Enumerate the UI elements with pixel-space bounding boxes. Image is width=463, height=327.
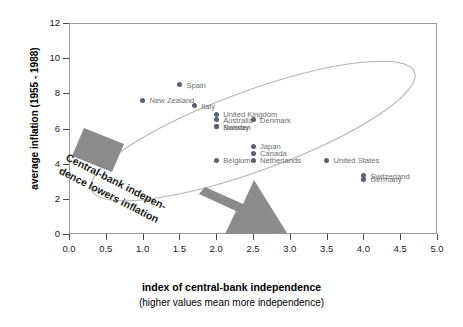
- data-point-label: Netherlands: [260, 156, 301, 165]
- y-tick-label: 12: [36, 17, 60, 28]
- x-tick-label: 4.5: [380, 243, 420, 254]
- x-tick: [106, 234, 107, 240]
- chart-canvas: average inflation (1955 - 1988) 02468101…: [0, 0, 463, 327]
- x-tick-label: 4.0: [343, 243, 383, 254]
- y-tick-label: 2: [36, 193, 60, 204]
- data-point[interactable]: [140, 98, 145, 103]
- data-point-label: Italy: [201, 102, 215, 111]
- data-point[interactable]: [361, 177, 366, 182]
- data-point-label: New Zealand: [150, 96, 195, 105]
- x-tick: [290, 234, 291, 240]
- x-tick: [143, 234, 144, 240]
- data-point[interactable]: [177, 82, 182, 87]
- y-tick-label: 4: [36, 158, 60, 169]
- y-tick-label: 10: [36, 52, 60, 63]
- x-tick-label: 3.0: [270, 243, 310, 254]
- x-tick-label: 3.5: [307, 243, 347, 254]
- data-point[interactable]: [214, 124, 219, 129]
- data-point[interactable]: [251, 158, 256, 163]
- data-point[interactable]: [214, 112, 219, 117]
- x-tick: [363, 234, 364, 240]
- data-point[interactable]: [251, 151, 256, 156]
- x-tick-label: 0.5: [86, 243, 126, 254]
- data-point[interactable]: [192, 103, 197, 108]
- x-tick-label: 0.0: [49, 243, 89, 254]
- x-tick: [437, 234, 438, 240]
- x-tick: [400, 234, 401, 240]
- x-tick: [327, 234, 328, 240]
- x-axis-subtitle: (higher values mean more independence): [0, 297, 463, 308]
- y-tick-label: 0: [36, 228, 60, 239]
- data-point[interactable]: [251, 144, 256, 149]
- data-point[interactable]: [251, 117, 256, 122]
- data-point[interactable]: [324, 158, 329, 163]
- data-point[interactable]: [214, 158, 219, 163]
- data-point-label: Belgium: [223, 156, 250, 165]
- x-tick-label: 5.0: [417, 243, 457, 254]
- x-tick: [253, 234, 254, 240]
- x-tick-label: 2.5: [233, 243, 273, 254]
- x-tick: [69, 234, 70, 240]
- data-point[interactable]: [214, 117, 219, 122]
- y-tick-label: 6: [36, 123, 60, 134]
- data-point-label: Denmark: [260, 116, 291, 125]
- x-tick-label: 1.0: [123, 243, 163, 254]
- data-point-label: United States: [334, 156, 380, 165]
- data-point-label: Germany: [370, 175, 401, 184]
- y-tick-label: 8: [36, 87, 60, 98]
- x-axis-title: index of central-bank independence: [0, 281, 463, 293]
- data-point-label: Norway: [223, 123, 249, 132]
- data-point-label: Spain: [186, 81, 205, 90]
